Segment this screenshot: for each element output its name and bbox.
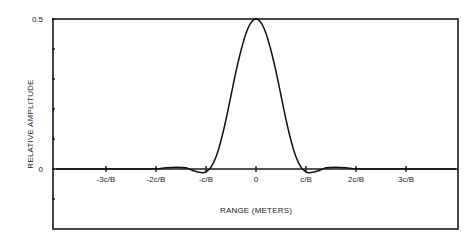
y-tick-label: 0.5	[32, 15, 44, 24]
y-ticks: 0.50	[32, 15, 55, 199]
x-tick-label: -3c/B	[97, 175, 116, 184]
x-tick-label: -2c/B	[147, 175, 166, 184]
x-tick-label: 0	[254, 175, 259, 184]
range-response-chart: 0.50 -3c/B-2c/B-c/B0c/B2c/B3c/B RANGE (M…	[0, 0, 470, 245]
y-tick-label: 0	[39, 165, 44, 174]
x-tick-label: c/B	[300, 175, 312, 184]
x-tick-label: 3c/B	[398, 175, 414, 184]
response-curve	[56, 19, 456, 173]
y-axis-title: RELATIVE AMPLITUDE	[26, 79, 35, 168]
x-axis-title: RANGE (METERS)	[220, 206, 292, 215]
x-tick-label: -c/B	[199, 175, 213, 184]
plot-frame	[53, 19, 458, 229]
x-tick-label: 2c/B	[348, 175, 364, 184]
